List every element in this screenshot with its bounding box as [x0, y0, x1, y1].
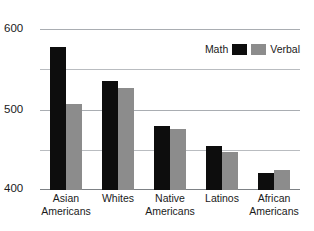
y-axis-label-500: 500: [4, 103, 38, 115]
y-axis-label-400: 400: [4, 182, 38, 194]
y-axis-label-600: 600: [4, 22, 38, 34]
bar-verbal-african-americans: [274, 170, 290, 190]
chart-legend: Math Verbal: [205, 43, 300, 55]
x-axis-label-line: Latinos: [196, 192, 248, 205]
x-axis-label-line: Native: [144, 192, 196, 205]
x-axis-label-line: Americans: [40, 205, 92, 218]
x-axis-label-native-americans: Native Americans: [144, 192, 196, 217]
bar-group-native-americans: [144, 29, 196, 190]
bar-group-asian-americans: [40, 29, 92, 190]
x-axis-label-line: Americans: [248, 205, 300, 218]
bar-chart: 600 500 400 Asian Americans: [0, 0, 314, 231]
legend-swatch-math: [232, 44, 247, 55]
legend-swatch-verbal: [251, 44, 266, 55]
bar-math-latinos: [206, 146, 222, 190]
x-axis-label-line: Asian: [40, 192, 92, 205]
x-axis-label-line: Americans: [144, 205, 196, 218]
bar-verbal-whites: [118, 88, 134, 190]
x-axis-label-line: African: [248, 192, 300, 205]
x-axis-label-african-americans: African Americans: [248, 192, 300, 217]
x-axis-label-whites: Whites: [92, 192, 144, 217]
bar-verbal-asian-americans: [66, 104, 82, 190]
bar-math-whites: [102, 81, 118, 190]
legend-label-verbal: Verbal: [270, 43, 300, 55]
x-axis-categories: Asian Americans Whites Native Americans …: [40, 192, 300, 217]
bar-math-african-americans: [258, 173, 274, 190]
bar-math-asian-americans: [50, 47, 66, 190]
x-axis-label-asian-americans: Asian Americans: [40, 192, 92, 217]
x-axis-label-latinos: Latinos: [196, 192, 248, 217]
bar-group-whites: [92, 29, 144, 190]
bar-math-native-americans: [154, 126, 170, 190]
bar-verbal-latinos: [222, 152, 238, 190]
legend-label-math: Math: [205, 43, 228, 55]
bar-verbal-native-americans: [170, 129, 186, 190]
x-axis-label-line: Whites: [92, 192, 144, 205]
